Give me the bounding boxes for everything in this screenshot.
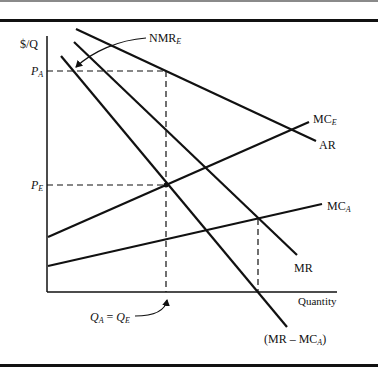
mr-curve [74,42,297,255]
pa-label: PA [31,65,43,79]
nmr-curve [61,56,287,327]
mca-label: MCA [327,200,351,214]
economics-diagram [0,0,378,375]
x-axis-label: Quantity [298,296,337,307]
equilibrium-point [164,183,169,188]
mr-label: MR [294,262,313,274]
q-arrow-icon [135,300,167,316]
q-equilibrium-label: QA = QE [90,311,130,325]
nmr-label: NMRE [149,32,181,46]
mce-curve [48,122,309,237]
y-axis-label: $/Q [20,38,38,50]
ar-label: AR [319,139,336,151]
mr-minus-mca-label: (MR – MCA) [264,333,326,347]
mce-label: MCE [313,113,337,127]
pe-label: PE [31,179,43,193]
mca-curve [48,204,322,266]
